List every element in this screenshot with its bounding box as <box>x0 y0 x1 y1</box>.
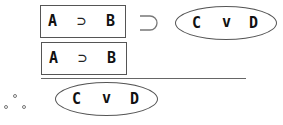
premise2-right: B <box>107 51 116 66</box>
premise1-antecedent-left: A <box>48 14 57 29</box>
premise1-consequent-op: v <box>222 15 231 30</box>
premise1-consequent-left: C <box>192 16 201 31</box>
inference-line <box>41 78 246 79</box>
premise2-left: A <box>49 51 58 66</box>
conclusion-left: C <box>72 92 81 107</box>
conclusion-right: D <box>130 92 139 107</box>
premise2-op: ⊃ <box>78 51 87 66</box>
premise1-antecedent-right: B <box>106 14 115 29</box>
horseshoe-icon <box>139 14 161 32</box>
premise1-antecedent-op: ⊃ <box>77 14 86 29</box>
premise1-consequent-right: D <box>249 16 258 31</box>
conclusion-op: v <box>102 91 111 106</box>
